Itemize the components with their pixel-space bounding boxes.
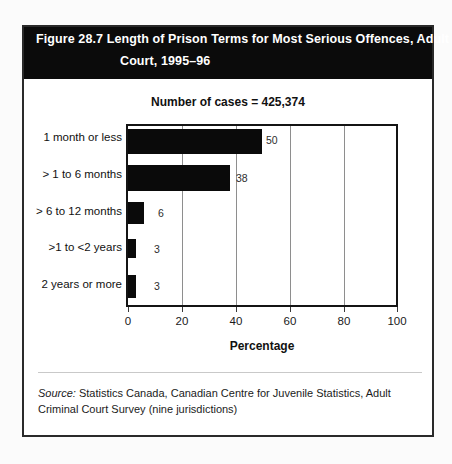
category-label-1-to-6-months: > 1 to 6 months bbox=[0, 168, 122, 180]
xtick-label-0: 0 bbox=[108, 315, 148, 327]
source-note-text: Statistics Canada, Canadian Centre for J… bbox=[38, 387, 391, 415]
bar-value-1-month-or-less: 50 bbox=[266, 134, 278, 146]
xtick-mark-80 bbox=[344, 307, 345, 312]
bar-value-6-to-12-months: 6 bbox=[158, 207, 164, 219]
xtick-label-60: 60 bbox=[270, 315, 310, 327]
xtick-label-40: 40 bbox=[216, 315, 256, 327]
xtick-label-80: 80 bbox=[324, 315, 364, 327]
xtick-mark-20 bbox=[182, 307, 183, 312]
category-label-6-to-12-months: > 6 to 12 months bbox=[0, 205, 122, 217]
figure-title-band: Figure 28.7 Length of Prison Terms for M… bbox=[24, 27, 432, 79]
source-divider bbox=[38, 372, 422, 373]
bar-2-years-or-more[interactable] bbox=[128, 275, 136, 298]
bar-value-2-years-or-more: 3 bbox=[154, 280, 160, 292]
xtick-label-100: 100 bbox=[377, 315, 417, 327]
source-note-label: Source: bbox=[38, 387, 76, 399]
figure-title-line-2: Court, 1995–96 bbox=[120, 54, 210, 68]
category-label-1-month-or-less: 1 month or less bbox=[0, 131, 122, 143]
bar-1-to-2-years[interactable] bbox=[128, 239, 136, 258]
gridline-60 bbox=[290, 126, 291, 305]
x-axis-title: Percentage bbox=[126, 339, 398, 353]
gridline-80 bbox=[344, 126, 345, 305]
bar-1-to-6-months[interactable] bbox=[128, 165, 230, 191]
xtick-label-20: 20 bbox=[162, 315, 202, 327]
source-note: Source: Statistics Canada, Canadian Cent… bbox=[38, 385, 424, 417]
xtick-mark-40 bbox=[236, 307, 237, 312]
figure-panel: Figure 28.7 Length of Prison Terms for M… bbox=[22, 25, 434, 437]
chart-area: 50 38 6 3 3 1 month or less > 1 to 6 mon… bbox=[24, 117, 436, 367]
category-label-2-years-or-more: 2 years or more bbox=[0, 278, 122, 290]
plot-frame bbox=[126, 124, 398, 307]
bar-value-1-to-2-years: 3 bbox=[154, 243, 160, 255]
figure-title-line-1: Figure 28.7 Length of Prison Terms for M… bbox=[36, 32, 449, 46]
bar-6-to-12-months[interactable] bbox=[128, 202, 144, 224]
bar-1-month-or-less[interactable] bbox=[128, 129, 262, 154]
chart-subtitle: Number of cases = 425,374 bbox=[24, 95, 432, 109]
xtick-mark-100 bbox=[397, 307, 398, 312]
category-label-1-to-2-years: >1 to <2 years bbox=[0, 241, 122, 253]
xtick-mark-60 bbox=[290, 307, 291, 312]
bar-value-1-to-6-months: 38 bbox=[236, 172, 248, 184]
xtick-mark-0 bbox=[128, 307, 129, 312]
